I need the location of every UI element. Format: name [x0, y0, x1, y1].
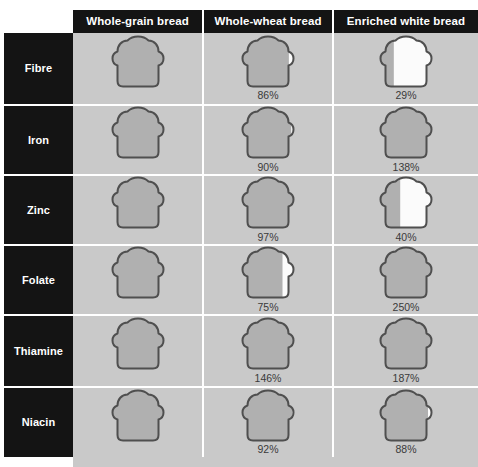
bread-slice-icon: [377, 36, 435, 88]
cell-value-label: 92%: [257, 444, 278, 456]
data-cell[interactable]: 138%: [332, 106, 478, 174]
row-label-text: Thiamine: [14, 346, 63, 357]
table-row: 90%138%: [73, 104, 478, 174]
column-header-2[interactable]: Whole-wheat bread: [202, 10, 332, 33]
data-cell[interactable]: 97%: [202, 176, 332, 244]
data-cell[interactable]: [73, 316, 202, 386]
column-header-label: Enriched white bread: [347, 16, 465, 28]
row-label-thiamine[interactable]: Thiamine: [4, 314, 73, 386]
data-cell[interactable]: [73, 388, 202, 457]
cell-value-label: 75%: [257, 301, 278, 313]
bread-slice-pictogram: [377, 247, 435, 299]
slice-filled-area: [239, 36, 289, 88]
table-row: 146%187%: [73, 314, 478, 386]
bread-slice-icon: [377, 318, 435, 370]
row-label-folate[interactable]: Folate: [4, 244, 73, 314]
bread-slice-pictogram: [239, 107, 297, 159]
bread-slice-pictogram: [239, 318, 297, 370]
bread-slice-icon: [109, 36, 167, 88]
bread-slice-pictogram: [109, 177, 167, 229]
bread-slice-pictogram: [377, 36, 435, 88]
row-label-niacin[interactable]: Niacin: [4, 386, 73, 457]
bread-slice-pictogram: [377, 107, 435, 159]
cell-value-label: 250%: [393, 301, 420, 313]
bread-nutrient-infographic: Whole-grain breadWhole-wheat breadEnrich…: [0, 0, 478, 467]
bread-slice-icon: [377, 390, 435, 442]
cell-value-label: 97%: [257, 231, 278, 243]
row-label-fibre[interactable]: Fibre: [4, 33, 73, 104]
bread-slice-pictogram: [109, 107, 167, 159]
table-row: 92%88%: [73, 386, 478, 457]
data-cell[interactable]: 90%: [202, 106, 332, 174]
cell-value-label: 40%: [395, 231, 416, 243]
column-header-label: Whole-grain bread: [86, 16, 189, 28]
cell-value-label: 146%: [255, 372, 282, 384]
bread-slice-icon: [239, 247, 297, 299]
data-cell[interactable]: 187%: [332, 316, 478, 386]
data-cell[interactable]: 40%: [332, 176, 478, 244]
bread-slice-pictogram: [377, 390, 435, 442]
table-row: 97%40%: [73, 174, 478, 244]
data-cell[interactable]: 86%: [202, 33, 332, 104]
cell-value-label: 187%: [393, 372, 420, 384]
data-cell[interactable]: 250%: [332, 246, 478, 314]
row-label-column: FibreIronZincFolateThiamineNiacin: [4, 33, 73, 467]
row-label-text: Iron: [28, 135, 49, 146]
column-header-3[interactable]: Enriched white bread: [332, 10, 478, 33]
bread-slice-icon: [377, 247, 435, 299]
data-grid: 86%29% 90%138% 97%40% 75%250% 146%187% 9…: [73, 33, 478, 467]
cell-value-label: 138%: [393, 161, 420, 173]
slice-filled-area: [239, 247, 283, 299]
bread-slice-pictogram: [109, 390, 167, 442]
data-cell[interactable]: [73, 33, 202, 104]
column-header-1[interactable]: Whole-grain bread: [73, 10, 202, 33]
table-row: 75%250%: [73, 244, 478, 314]
data-cell[interactable]: [73, 246, 202, 314]
cell-value-label: 29%: [395, 90, 416, 102]
bread-slice-icon: [239, 390, 297, 442]
bread-slice-icon: [109, 318, 167, 370]
column-header-label: Whole-wheat bread: [214, 16, 321, 28]
bread-slice-pictogram: [239, 36, 297, 88]
bread-slice-pictogram: [239, 247, 297, 299]
bread-slice-pictogram: [109, 36, 167, 88]
bread-slice-pictogram: [239, 390, 297, 442]
bread-slice-pictogram: [109, 318, 167, 370]
row-label-text: Fibre: [25, 63, 52, 74]
data-cell[interactable]: 29%: [332, 33, 478, 104]
bread-slice-pictogram: [109, 247, 167, 299]
bread-slice-icon: [377, 177, 435, 229]
row-label-iron[interactable]: Iron: [4, 104, 73, 174]
bread-slice-pictogram: [377, 177, 435, 229]
bread-slice-icon: [239, 107, 297, 159]
row-label-text: Folate: [22, 275, 55, 286]
column-header-row: Whole-grain breadWhole-wheat breadEnrich…: [73, 10, 478, 33]
data-cell[interactable]: 146%: [202, 316, 332, 386]
cell-value-label: 88%: [395, 444, 416, 456]
bread-slice-icon: [109, 247, 167, 299]
bread-slice-icon: [109, 177, 167, 229]
data-cell[interactable]: [73, 106, 202, 174]
bread-slice-icon: [109, 390, 167, 442]
bread-slice-icon: [239, 36, 297, 88]
cell-value-label: 90%: [257, 161, 278, 173]
bread-slice-icon: [239, 318, 297, 370]
bread-slice-icon: [377, 107, 435, 159]
row-label-text: Zinc: [27, 205, 50, 216]
bread-slice-pictogram: [377, 318, 435, 370]
data-cell[interactable]: 88%: [332, 388, 478, 457]
table-row: 86%29%: [73, 33, 478, 104]
bread-slice-icon: [109, 107, 167, 159]
bread-slice-pictogram: [239, 177, 297, 229]
bread-slice-icon: [239, 177, 297, 229]
row-label-text: Niacin: [22, 417, 56, 428]
cell-value-label: 86%: [257, 90, 278, 102]
data-cell[interactable]: 75%: [202, 246, 332, 314]
data-cell[interactable]: [73, 176, 202, 244]
row-label-zinc[interactable]: Zinc: [4, 174, 73, 244]
data-cell[interactable]: 92%: [202, 388, 332, 457]
